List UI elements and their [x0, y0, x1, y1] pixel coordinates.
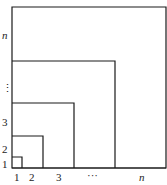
square-2	[12, 136, 43, 168]
y-label-3: 3	[2, 116, 8, 128]
y-label-n: n	[2, 29, 8, 41]
square-n-minus-1	[12, 61, 115, 168]
x-label-ellipsis: ···	[87, 169, 98, 181]
y-label-vdots: ⋮	[2, 82, 13, 94]
y-label-1: 1	[2, 158, 8, 170]
nested-squares-diagram: 1 2 3 ··· n 1 2 3 ⋮ n	[0, 0, 167, 185]
y-label-2: 2	[2, 143, 8, 155]
x-label-2: 2	[29, 171, 35, 183]
square-1	[12, 157, 22, 168]
x-label-3: 3	[56, 171, 62, 183]
x-label-1: 1	[14, 171, 20, 183]
square-n	[12, 7, 166, 168]
x-label-n: n	[139, 171, 145, 183]
